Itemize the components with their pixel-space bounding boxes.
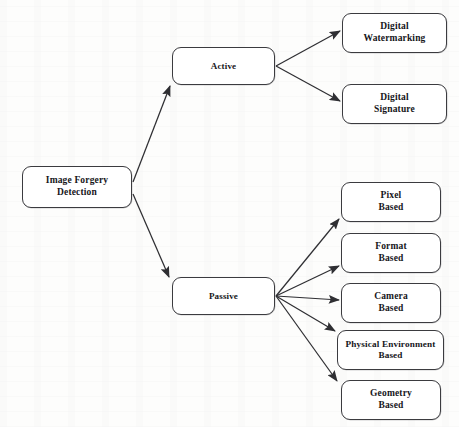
edge-passive-to-camera_based	[276, 296, 339, 300]
node-geometry-based-label: Geometry Based	[367, 388, 415, 411]
node-camera-based-label: Camera Based	[371, 291, 411, 314]
diagram-canvas: Image Forgery Detection Active Passive D…	[0, 0, 459, 427]
edge-root-to-active	[133, 86, 170, 182]
node-digital-watermarking[interactable]: Digital Watermarking	[342, 13, 447, 53]
node-digital-watermarking-label: Digital Watermarking	[361, 21, 429, 44]
node-pixel-based-label: Pixel Based	[375, 190, 406, 213]
node-root[interactable]: Image Forgery Detection	[22, 166, 132, 208]
edge-passive-to-geometry_based	[276, 296, 337, 381]
node-camera-based[interactable]: Camera Based	[341, 283, 441, 323]
node-passive[interactable]: Passive	[172, 277, 275, 315]
edge-passive-to-pixel_based	[276, 219, 339, 296]
node-digital-signature[interactable]: Digital Signature	[342, 84, 447, 124]
node-root-label: Image Forgery Detection	[43, 175, 111, 198]
node-format-based-label: Format Based	[372, 241, 410, 264]
node-physical-environment-based-label: Physical Environment Based	[343, 339, 439, 361]
node-active[interactable]: Active	[172, 47, 275, 85]
node-geometry-based[interactable]: Geometry Based	[341, 380, 441, 420]
edge-root-to-passive	[133, 194, 169, 277]
edge-active-to-digital_watermarking	[276, 31, 340, 66]
edge-passive-to-physical_environment_based	[276, 296, 335, 331]
edge-active-to-digital_signature	[276, 66, 340, 101]
node-active-label: Active	[208, 61, 239, 72]
node-digital-signature-label: Digital Signature	[371, 92, 418, 115]
edge-passive-to-format_based	[276, 266, 339, 296]
node-format-based[interactable]: Format Based	[341, 233, 441, 273]
node-pixel-based[interactable]: Pixel Based	[341, 182, 441, 222]
node-physical-environment-based[interactable]: Physical Environment Based	[337, 330, 444, 370]
node-passive-label: Passive	[206, 291, 241, 302]
